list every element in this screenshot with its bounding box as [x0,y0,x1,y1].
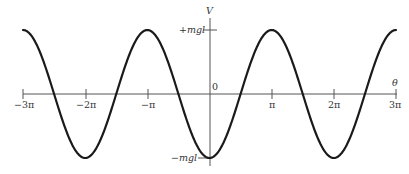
x-tick-label: −π [141,99,155,110]
x-tick-label: 2π [328,99,340,110]
x-tick-label: −2π [76,99,96,110]
potential-energy-chart: V θ 0 +mgl −mgl −3π −2π −π π 2π 3π [0,0,409,174]
x-tick-label: 3π [389,99,401,110]
x-axis-label: θ [392,77,398,88]
origin-label: 0 [212,81,218,92]
y-min-label: −mgl [171,152,197,163]
x-tick-label: π [269,99,275,110]
x-tick-label: −3π [14,99,34,110]
y-max-label: +mgl [179,24,205,35]
y-axis-label: V [206,5,214,16]
